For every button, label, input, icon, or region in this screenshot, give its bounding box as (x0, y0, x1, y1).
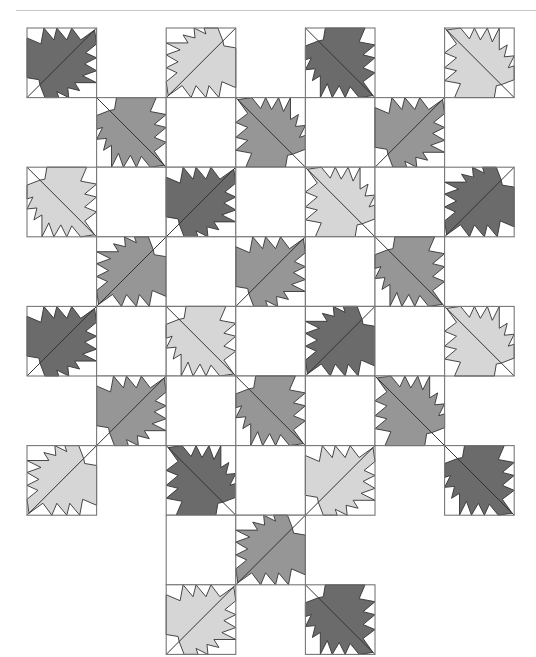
plain-white-block (97, 306, 167, 376)
maple-leaf-block-dark (305, 585, 375, 655)
plain-white-block (305, 98, 375, 168)
maple-leaf-block-dark (27, 28, 97, 98)
maple-leaf-block-dark (445, 167, 515, 237)
plain-white-block (166, 98, 236, 168)
maple-leaf-block-light (27, 167, 97, 237)
maple-leaf-block-light (166, 28, 236, 98)
maple-leaf-block-light (166, 306, 236, 376)
maple-leaf-block-medium (236, 376, 306, 446)
maple-leaf-block-light (445, 306, 515, 376)
maple-leaf-quilt-diagram (0, 0, 536, 657)
plain-white-block (305, 376, 375, 446)
maple-leaf-block-light (166, 585, 236, 655)
maple-leaf-block-dark (445, 446, 515, 516)
plain-white-block (236, 306, 306, 376)
maple-leaf-block-medium (236, 237, 306, 307)
maple-leaf-block-light (27, 446, 97, 516)
maple-leaf-block-light (445, 28, 515, 98)
maple-leaf-block-light (305, 167, 375, 237)
plain-white-block (375, 167, 445, 237)
quilt-blocks (27, 28, 514, 654)
plain-white-block (166, 515, 236, 585)
plain-white-block (305, 237, 375, 307)
maple-leaf-block-medium (236, 98, 306, 168)
plain-white-block (236, 167, 306, 237)
maple-leaf-block-medium (236, 515, 306, 585)
maple-leaf-block-medium (97, 376, 167, 446)
maple-leaf-block-dark (305, 28, 375, 98)
maple-leaf-block-medium (375, 237, 445, 307)
maple-leaf-block-dark (27, 306, 97, 376)
maple-leaf-block-dark (166, 446, 236, 516)
plain-white-block (375, 306, 445, 376)
maple-leaf-block-medium (375, 376, 445, 446)
maple-leaf-block-light (305, 446, 375, 516)
plain-white-block (166, 237, 236, 307)
maple-leaf-block-dark (166, 167, 236, 237)
plain-white-block (97, 167, 167, 237)
plain-white-block (166, 376, 236, 446)
maple-leaf-block-dark (305, 306, 375, 376)
maple-leaf-block-medium (97, 237, 167, 307)
plain-white-block (236, 446, 306, 516)
maple-leaf-block-medium (97, 98, 167, 168)
maple-leaf-block-medium (375, 98, 445, 168)
